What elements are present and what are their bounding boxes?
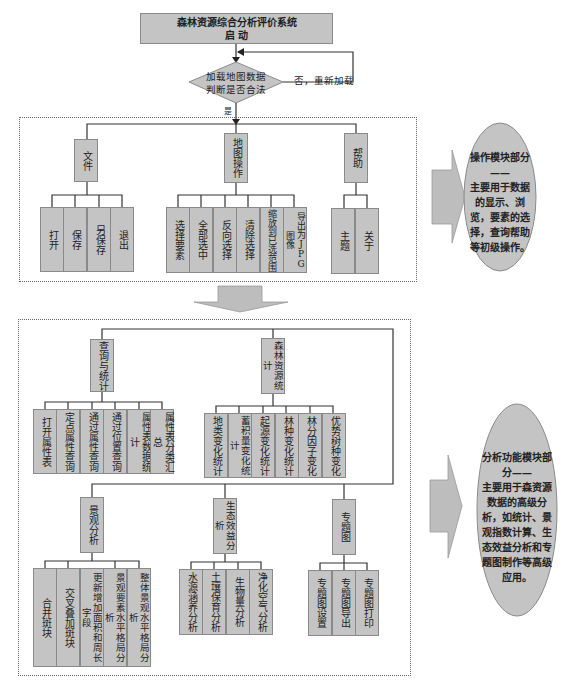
menu-item-thematic-map-export[interactable]: 专题图导出: [332, 570, 356, 636]
menu-item-point-attribute-query[interactable]: 定点属性查询: [56, 409, 80, 474]
system-start-label: 启 动: [225, 29, 248, 42]
menu-item-attribute-summary[interactable]: 属性表分类汇总: [150, 409, 174, 474]
menu-item-land-class-change[interactable]: 地类变化统计: [204, 413, 228, 478]
group-query-statistics: 查询与统计: [90, 339, 114, 392]
menu-item-element-pattern-analysis[interactable]: 景观要素水平格局分析: [103, 568, 127, 667]
decision-line2: 判断是否合法: [198, 83, 274, 96]
menu-item-open[interactable]: 打开: [40, 207, 64, 272]
menu-item-attribute-statistics[interactable]: 属性表数据统计: [127, 409, 151, 474]
menu-item-save-as[interactable]: 另保存: [87, 207, 111, 272]
menu-item-biomass-analysis[interactable]: 生物量分析: [226, 569, 250, 635]
menu-item-volume-change[interactable]: 蓄积量变化统计: [228, 413, 252, 478]
analysis-description-body: 主要用于森资源数据的高级分析，如统计、景观指数计算、生态效益分析和专题图制作等高…: [479, 480, 555, 585]
operation-module-description: 操作模块部分—— 主要用于数据的显示、浏览，要素的选择，查询帮助等初级操作。: [470, 150, 530, 255]
group-forest-resource-statistics: 森林资源统计: [261, 338, 285, 394]
menu-item-save[interactable]: 保存: [63, 207, 87, 272]
group-file: 文件: [74, 139, 98, 182]
group-help: 帮助: [344, 133, 368, 183]
menu-item-thematic-map-print[interactable]: 专题图打印: [355, 570, 379, 636]
operation-description-title: 操作模块部分——: [470, 150, 530, 180]
menu-item-intersect-overlay-patches[interactable]: 交叉叠加斑块: [56, 568, 80, 667]
group-thematic-map: 专题图: [332, 499, 356, 555]
decision-node: 加载地图数据 判断是否合法: [198, 70, 274, 96]
menu-item-select-all[interactable]: 全部选中: [189, 207, 213, 273]
group-landscape-analysis: 景观分析: [80, 497, 104, 553]
analysis-description-title: 分析功能模块部分——: [479, 450, 555, 480]
group-ecological-benefit-analysis: 生态效益分析: [213, 498, 237, 554]
menu-item-export-jpg[interactable]: 导出为JPG图像: [283, 207, 307, 273]
system-title: 森林资源综合分析评价系统: [177, 16, 297, 29]
menu-item-thematic-map-settings[interactable]: 专题图设置: [308, 570, 332, 636]
decision-line1: 加载地图数据: [198, 70, 274, 83]
menu-item-about[interactable]: 关于: [355, 208, 379, 274]
decision-no-label: 否，重新加载: [294, 73, 354, 87]
decision-yes-label: 是: [224, 105, 232, 116]
menu-item-stand-factor-change[interactable]: 林分因子变化: [298, 413, 322, 478]
menu-item-exit[interactable]: 退出: [110, 207, 134, 272]
group-map-operation: 地图操作: [224, 133, 248, 183]
menu-item-water-conservation[interactable]: 水源涵养分析: [179, 569, 203, 635]
menu-item-zoom-to-selection[interactable]: 缩放到已选范围: [260, 207, 284, 273]
menu-item-query-by-attribute[interactable]: 通过属性查询: [80, 409, 104, 474]
menu-item-topics[interactable]: 主题: [331, 208, 355, 274]
system-title-box: 森林资源综合分析评价系统 启 动: [140, 13, 333, 44]
menu-item-overall-pattern-analysis[interactable]: 整体景观水平格局分析: [127, 568, 151, 667]
analysis-module-description: 分析功能模块部分—— 主要用于森资源数据的高级分析，如统计、景观指数计算、生态效…: [479, 450, 555, 585]
menu-item-clear-selection[interactable]: 清除选择: [236, 207, 260, 273]
menu-item-air-purification[interactable]: 净化空气分析: [249, 569, 273, 635]
menu-item-merge-patches[interactable]: 合并斑块: [33, 568, 57, 667]
menu-item-update-area-perimeter[interactable]: 更新增加面积和周长字段: [80, 568, 104, 667]
menu-item-dominant-species-change[interactable]: 优势树种变化: [322, 413, 346, 478]
menu-item-soil-conservation[interactable]: 土壤保育分析: [202, 569, 226, 635]
operation-description-body: 主要用于数据的显示、浏览，要素的选择，查询帮助等初级操作。: [470, 180, 530, 255]
menu-item-select-feature[interactable]: 选择要素: [166, 207, 190, 273]
menu-item-query-by-location[interactable]: 通过位置查询: [103, 409, 127, 474]
menu-item-origin-change[interactable]: 起源变化统计: [251, 413, 275, 478]
menu-item-open-attribute-table[interactable]: 打开属性表: [33, 409, 57, 474]
menu-item-forest-type-change[interactable]: 林种变化统计: [275, 413, 299, 478]
menu-item-invert-selection[interactable]: 反向选择: [213, 207, 237, 273]
